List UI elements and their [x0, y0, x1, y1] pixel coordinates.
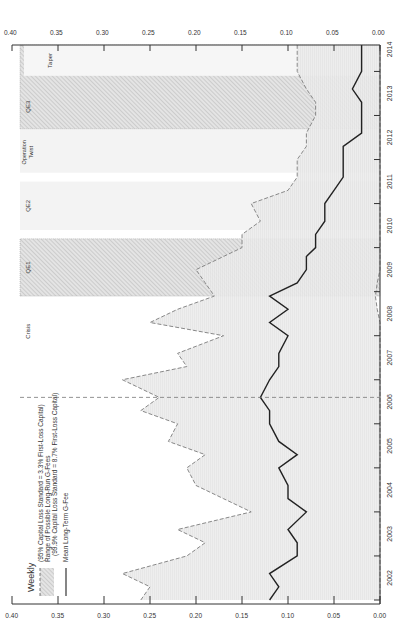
frequency-label: Weekly	[26, 562, 36, 592]
y-tick-label-left: 0.15	[235, 612, 248, 619]
y-tick-label-left: 0.25	[143, 612, 156, 619]
y-tick-label-right: 0.10	[280, 29, 293, 36]
x-tick-label: 2003	[386, 526, 393, 542]
y-tick-label-right: 0.25	[142, 29, 155, 36]
y-tick-label-right: 0.35	[50, 29, 63, 36]
g-fee-chart: 2002200320042005200620072008200920102011…	[0, 0, 400, 644]
y-tick-label-right: 0.05	[326, 29, 339, 36]
annotation-taper: Taper	[47, 53, 53, 68]
y-tick-label-right: 0.15	[234, 29, 247, 36]
y-tick-label-left: 0.05	[327, 612, 340, 619]
x-tick-label: 2008	[386, 306, 393, 322]
x-tick-label: 2010	[386, 218, 393, 234]
annotation-crisis: Crisis	[25, 324, 31, 339]
legend: (95% Capital Loss Standard = 3.3% First-…	[37, 393, 70, 596]
y-tick-label-left: 0.20	[189, 612, 202, 619]
x-tick-label: 2013	[386, 86, 393, 102]
x-tick-label: 2009	[386, 262, 393, 278]
x-tick-label: 2005	[386, 438, 393, 454]
y-tick-label-left: 0.35	[51, 612, 64, 619]
y-tick-label-right: 0.30	[96, 29, 109, 36]
y-tick-label-left: 0.40	[5, 612, 18, 619]
y-tick-label-right: 0.20	[188, 29, 201, 36]
x-tick-label: 2002	[386, 570, 393, 586]
legend-item-2: (99.9% Capital Loss Standard = 8.7% Firs…	[51, 393, 59, 556]
x-tick-label: 2007	[386, 350, 393, 366]
legend-item-3: Mean Long-Term G-Fee	[62, 492, 70, 562]
legend-swatch-range	[40, 568, 54, 596]
y-tick-label-left: 0.10	[281, 612, 294, 619]
x-tick-label: 2014	[386, 42, 393, 58]
y-tick-label-right: 0.00	[372, 29, 385, 36]
x-tick-label: 2011	[386, 174, 393, 189]
x-tick-label: 2004	[386, 482, 393, 498]
y-tick-label-left: 0.00	[373, 612, 386, 619]
x-tick-label: 2012	[386, 130, 393, 146]
y-tick-label-left: 0.30	[97, 612, 110, 619]
chart-stage: 2002200320042005200620072008200920102011…	[0, 0, 400, 644]
y-tick-label-right: 0.40	[4, 29, 17, 36]
annotation-qe3: QE3	[25, 100, 31, 113]
annotation-qe1: QE1	[25, 261, 31, 274]
x-tick-label: 2006	[386, 394, 393, 410]
annotation-qe2: QE2	[25, 199, 31, 212]
